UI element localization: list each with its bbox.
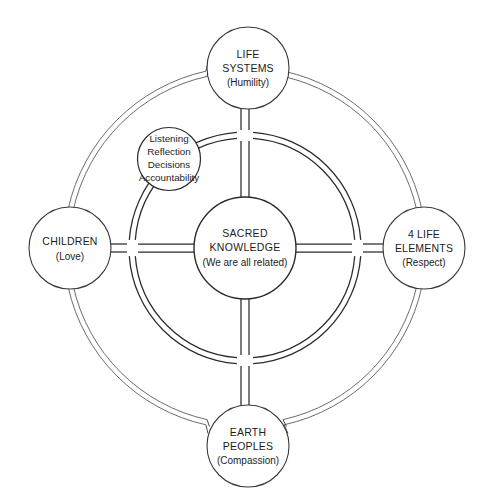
earth-peoples-label-line1: EARTH	[230, 426, 266, 438]
outer-ring-arc-top-right	[284, 71, 422, 209]
life-systems-label-line3: (Humility)	[227, 77, 269, 88]
process-item-accountability: Accountability	[139, 172, 200, 183]
center-label-line1: SACRED	[222, 227, 268, 239]
node-earth-peoples[interactable]: EARTH PEOPLES (Compassion)	[207, 405, 289, 487]
four-life-elements-label-line3: (Respect)	[402, 257, 445, 268]
earth-peoples-label-line3: (Compassion)	[217, 455, 279, 466]
children-circle[interactable]	[29, 207, 111, 289]
node-four-life-elements[interactable]: 4 LIFE ELEMENTS (Respect)	[383, 207, 465, 289]
outer-ring-inner-arc-top-right	[283, 76, 417, 210]
children-label-line1: CHILDREN	[42, 235, 97, 247]
outer-ring-inner-arc-bottom-left	[73, 286, 207, 420]
medicine-wheel-diagram: Listening Reflection Decisions Accountab…	[0, 0, 485, 490]
node-children[interactable]: CHILDREN (Love)	[29, 207, 111, 289]
children-label-line2: (Love)	[56, 251, 84, 262]
center-label-line3: (We are all related)	[203, 257, 288, 268]
node-life-systems[interactable]: LIFE SYSTEMS (Humility)	[207, 27, 289, 109]
center-node[interactable]: SACRED KNOWLEDGE (We are all related)	[194, 197, 296, 299]
outer-ring-arc-bottom-left	[68, 287, 206, 425]
life-systems-label-line1: LIFE	[237, 48, 260, 60]
four-life-elements-label-line1: 4 LIFE	[408, 228, 440, 240]
outer-ring-inner-arc-bottom-right	[283, 286, 417, 420]
diagram-canvas: Listening Reflection Decisions Accountab…	[0, 0, 485, 490]
outer-ring-arc-bottom-right	[284, 287, 422, 425]
process-item-decisions: Decisions	[148, 159, 191, 170]
life-systems-label-line2: SYSTEMS	[222, 62, 274, 74]
process-item-reflection: Reflection	[147, 146, 191, 157]
process-item-listening: Listening	[149, 133, 188, 144]
earth-peoples-label-line2: PEOPLES	[223, 440, 273, 452]
process-values-node[interactable]: Listening Reflection Decisions Accountab…	[138, 128, 201, 191]
four-life-elements-label-line2: ELEMENTS	[395, 242, 453, 254]
center-label-line2: KNOWLEDGE	[210, 241, 281, 253]
connector-bottom-left-inner	[207, 420, 210, 427]
connector-bottom-left	[206, 425, 208, 434]
